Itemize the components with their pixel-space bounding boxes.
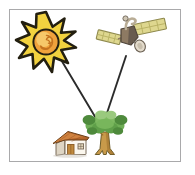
figure-root: Sun and satellite transmitting to a hous… bbox=[0, 0, 195, 175]
house-icon bbox=[53, 132, 89, 158]
tree-icon bbox=[83, 110, 128, 154]
sun-disk-highlight bbox=[36, 32, 51, 47]
figure-illustration bbox=[0, 0, 195, 175]
satellite-icon bbox=[96, 16, 166, 54]
satellite-solar-panel-left bbox=[96, 30, 122, 45]
sun-to-tree-beam bbox=[60, 58, 100, 125]
satellite-mast-tip bbox=[123, 16, 128, 21]
tree-canopy bbox=[83, 110, 128, 134]
satellite-solar-panel-right bbox=[133, 18, 167, 35]
sun-icon bbox=[16, 12, 76, 72]
house-ground-shadow bbox=[53, 154, 87, 158]
